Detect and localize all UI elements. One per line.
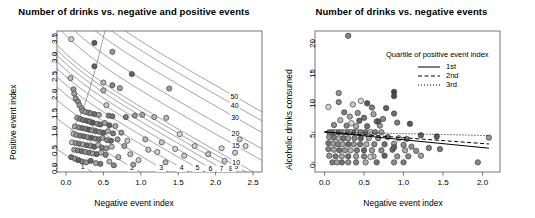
data-point (69, 37, 74, 42)
data-point (382, 142, 387, 147)
data-point (354, 148, 359, 153)
contour-label: 10 (232, 159, 240, 166)
contour-label: 5 (196, 164, 200, 171)
data-point (167, 86, 172, 91)
data-point (418, 133, 423, 138)
data-point (123, 114, 128, 119)
data-point (361, 154, 366, 159)
contour-label: 7 (220, 165, 224, 172)
data-point (346, 154, 351, 159)
data-point (140, 112, 145, 117)
data-point (339, 160, 344, 165)
data-point (111, 163, 116, 168)
data-point (101, 88, 106, 93)
data-point (414, 148, 419, 153)
data-point (407, 121, 412, 126)
data-point (342, 110, 347, 115)
data-point (355, 110, 360, 115)
data-point (159, 140, 164, 145)
legend-label-1st: 1st (446, 62, 456, 71)
data-point (108, 138, 113, 143)
x-tick-label: 0.5 (355, 178, 373, 187)
data-point (353, 154, 358, 159)
data-point (146, 147, 151, 152)
data-point (109, 144, 114, 149)
data-point (331, 147, 336, 152)
right-x-axis-label: Negative event index (278, 198, 528, 208)
data-point (232, 150, 237, 155)
data-point (351, 142, 356, 147)
data-point (72, 91, 77, 96)
data-point (119, 130, 124, 135)
data-point (96, 112, 101, 117)
data-point (125, 138, 130, 143)
left-chart: Number of drinks vs. negative and positi… (0, 0, 268, 218)
data-point (88, 158, 93, 163)
data-point (364, 101, 369, 106)
data-point (376, 119, 381, 124)
data-point (110, 49, 115, 54)
data-point (101, 80, 106, 85)
data-point (163, 160, 168, 165)
y-tick-label: 0.5 (50, 145, 59, 156)
data-point (336, 90, 341, 95)
data-point (391, 145, 396, 150)
y-tick-label: 10 (308, 99, 317, 108)
data-point (475, 160, 480, 165)
data-point (105, 129, 110, 134)
contour-label: 3 (159, 164, 163, 171)
data-point (358, 98, 363, 103)
data-point (346, 142, 351, 147)
y-tick-label: 1.5 (50, 108, 59, 119)
data-point (104, 103, 109, 108)
legend-swatch-1st (418, 64, 440, 70)
legend-label-3rd: 3rd (446, 80, 457, 89)
data-point (219, 146, 224, 151)
right-chart-title: Number of drinks vs. negative events (268, 6, 535, 17)
contour-label: 20 (232, 130, 240, 137)
data-point (333, 154, 338, 159)
data-point (342, 148, 347, 153)
data-point (401, 160, 406, 165)
x-tick-label: 0.0 (315, 178, 333, 187)
contour-label: 30 (231, 114, 239, 121)
data-point (349, 120, 354, 125)
data-point (129, 71, 134, 76)
data-point (353, 124, 358, 129)
data-point (327, 153, 332, 158)
data-point (372, 142, 377, 147)
y-tick-label: 2.0 (50, 89, 59, 100)
data-point (237, 137, 242, 142)
data-point (111, 131, 116, 136)
contour-label: 50 (230, 93, 238, 100)
contour-label: 4 (180, 164, 184, 171)
data-point (346, 160, 351, 165)
data-point (364, 124, 369, 129)
data-point (383, 105, 388, 110)
data-point (206, 152, 211, 157)
data-point (107, 159, 112, 164)
right-chart: Number of drinks vs. negative events Neg… (268, 0, 535, 218)
x-tick-label: 1.0 (395, 178, 413, 187)
data-point (382, 153, 387, 158)
x-tick-label: 0.0 (57, 178, 75, 187)
data-point (192, 143, 197, 148)
data-point (104, 146, 109, 151)
data-point (136, 158, 141, 163)
x-tick-label: 1.5 (169, 178, 187, 187)
data-point (338, 117, 343, 122)
data-point (117, 86, 122, 91)
x-tick-label: 2.5 (244, 178, 262, 187)
data-point (437, 146, 442, 151)
data-point (113, 123, 118, 128)
data-point (173, 146, 178, 151)
data-point (346, 136, 351, 141)
data-point (346, 33, 351, 38)
data-point (337, 148, 342, 153)
data-point (177, 132, 182, 137)
left-chart-title: Number of drinks vs. negative and positi… (0, 6, 268, 17)
data-point (371, 111, 376, 116)
data-point (379, 130, 384, 135)
data-point (103, 152, 108, 157)
contour-label: 40 (231, 102, 239, 109)
